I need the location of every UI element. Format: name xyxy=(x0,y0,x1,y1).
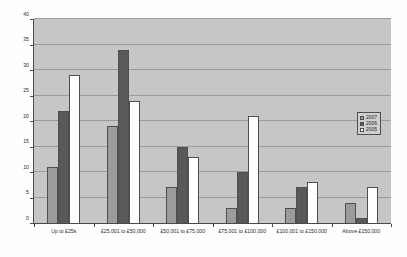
legend-item-2005[interactable]: 2005 xyxy=(360,127,377,132)
bar-2007-3[interactable] xyxy=(166,187,177,223)
legend-label: 2005 xyxy=(366,127,377,132)
bar-2007-6[interactable] xyxy=(345,203,356,223)
y-axis-tick-label: 35 xyxy=(23,38,29,43)
x-axis-label: £25,001 to £50,000 xyxy=(94,228,154,246)
bar-groups-layer xyxy=(34,19,391,223)
bar-group xyxy=(213,19,273,223)
bar-2005-5[interactable] xyxy=(307,182,318,223)
x-axis-tick-mark xyxy=(34,224,35,227)
y-axis-tick-label: 25 xyxy=(23,89,29,94)
bar-2007-4[interactable] xyxy=(226,208,237,223)
x-axis-tick-mark xyxy=(391,224,392,227)
x-axis-label: Up to £25k xyxy=(34,228,94,246)
bar-2006-4[interactable] xyxy=(237,172,248,223)
bar-chart: 0510152025303540 Up to £25k£25,001 to £5… xyxy=(0,0,407,257)
y-axis-tick-label: 10 xyxy=(23,165,29,170)
y-axis-tick-label: 15 xyxy=(23,140,29,145)
y-axis-tick-mark xyxy=(30,147,33,148)
bar-2005-3[interactable] xyxy=(188,157,199,223)
bar-2006-3[interactable] xyxy=(177,147,188,224)
x-axis-tick-mark xyxy=(213,224,214,227)
y-axis-tick-mark xyxy=(30,121,33,122)
y-axis-tick-mark xyxy=(30,172,33,173)
bar-2007-1[interactable] xyxy=(47,167,58,223)
bar-group xyxy=(272,19,332,223)
x-axis-label: Above £150,000 xyxy=(332,228,392,246)
bar-2005-2[interactable] xyxy=(129,101,140,223)
y-axis-tick-mark xyxy=(30,19,33,20)
y-axis-tick-mark xyxy=(30,198,33,199)
bar-2005-6[interactable] xyxy=(367,187,378,223)
y-axis-tick-label: 40 xyxy=(23,12,29,17)
bar-group xyxy=(94,19,154,223)
bar-2006-6[interactable] xyxy=(356,218,367,223)
y-axis-tick-mark xyxy=(30,45,33,46)
bar-2005-4[interactable] xyxy=(248,116,259,223)
legend-swatch-icon xyxy=(360,128,364,132)
y-axis-tick-label: 30 xyxy=(23,63,29,68)
x-axis-labels: Up to £25k£25,001 to £50,000£50,001 to £… xyxy=(34,228,391,246)
y-axis-tick-label: 0 xyxy=(26,216,29,221)
y-axis-tick-label: 5 xyxy=(26,191,29,196)
bar-2005-1[interactable] xyxy=(69,75,80,223)
x-axis-label: £100,001 to £150,000 xyxy=(272,228,332,246)
bar-2007-5[interactable] xyxy=(285,208,296,223)
y-axis-tick-mark xyxy=(30,223,33,224)
legend-swatch-icon xyxy=(360,116,364,120)
legend-swatch-icon xyxy=(360,122,364,126)
bar-2006-2[interactable] xyxy=(118,50,129,223)
bar-group xyxy=(34,19,94,223)
y-axis-tick-label: 20 xyxy=(23,114,29,119)
y-axis: 0510152025303540 xyxy=(0,19,33,225)
bar-group xyxy=(153,19,213,223)
bar-2006-1[interactable] xyxy=(58,111,69,223)
x-axis-tick-mark xyxy=(153,224,154,227)
y-axis-tick-mark xyxy=(30,70,33,71)
x-axis-label: £75,001 to £100,000 xyxy=(213,228,273,246)
bar-2007-2[interactable] xyxy=(107,126,118,223)
x-axis-tick-mark xyxy=(272,224,273,227)
chart-legend: 200720062005 xyxy=(357,112,381,135)
y-axis-tick-mark xyxy=(30,96,33,97)
x-axis-label: £50,001 to £75,000 xyxy=(153,228,213,246)
x-axis-tick-mark xyxy=(94,224,95,227)
bar-2006-5[interactable] xyxy=(296,187,307,223)
x-axis-tick-mark xyxy=(332,224,333,227)
